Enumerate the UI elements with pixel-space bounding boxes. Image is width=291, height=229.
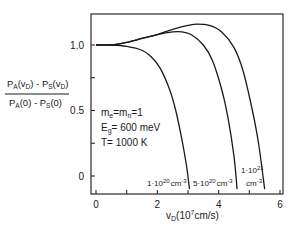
y-tick-label: 0.5 xyxy=(70,105,84,116)
chart: 024600.51.0 PA(vD) - PS(vD) PA(0) - PS(0… xyxy=(0,0,291,229)
svg-text:T= 1000 K: T= 1000 K xyxy=(101,137,148,148)
y-tick-label: 1.0 xyxy=(70,40,84,51)
x-tick-label: 4 xyxy=(216,199,222,210)
x-tick-label: 6 xyxy=(277,199,283,210)
svg-text:me=mn=1: me=mn=1 xyxy=(101,107,143,119)
svg-text:PA(vD) - PS(vD): PA(vD) - PS(vD) xyxy=(7,78,68,90)
series-labels: 1·1020cm-3 5·1020cm-3 1·1021 cm-3 xyxy=(147,165,264,188)
x-tick-label: 2 xyxy=(155,199,161,210)
series-label-1e21-unit: cm-3 xyxy=(246,178,263,188)
x-axis-label: vD(107cm/s) xyxy=(166,209,219,222)
series-label-5e20: 5·1020cm-3 xyxy=(193,178,233,188)
x-tick-label: 0 xyxy=(93,199,99,210)
y-axis-label: PA(vD) - PS(vD) PA(0) - PS(0) xyxy=(5,78,69,109)
parameter-annotation: me=mn=1 Eg= 600 meV T= 1000 K xyxy=(101,107,161,148)
y-tick-label: 0 xyxy=(78,171,84,182)
series-label-1e20: 1·1020cm-3 xyxy=(147,178,187,188)
svg-text:PA(0) - PS(0): PA(0) - PS(0) xyxy=(9,97,62,109)
series-label-1e21: 1·1021 xyxy=(241,165,264,175)
svg-text:Eg= 600 meV: Eg= 600 meV xyxy=(101,122,161,135)
